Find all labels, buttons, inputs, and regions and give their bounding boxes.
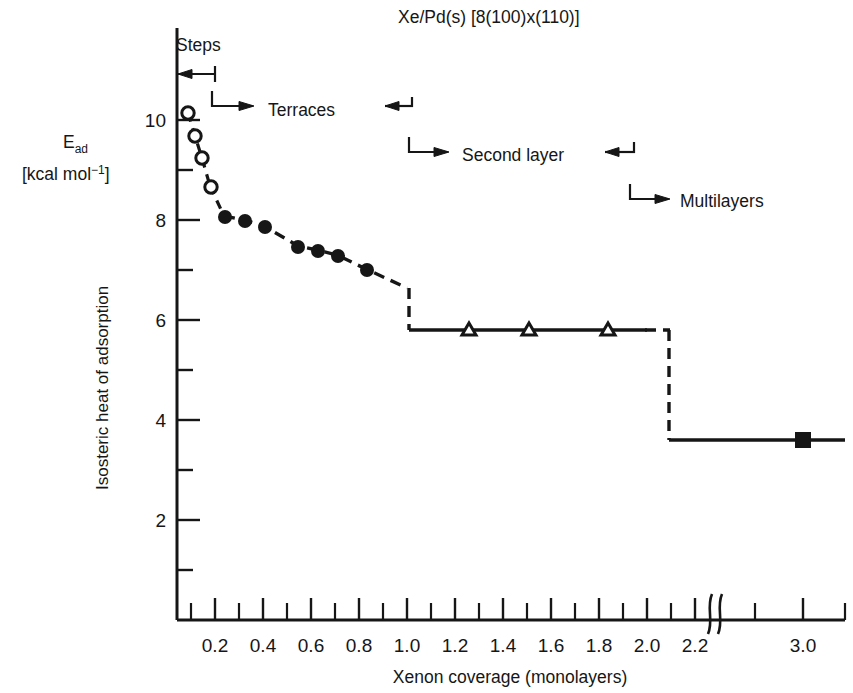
y-tick-label: 10	[145, 110, 166, 131]
y-axis-title-ead: Ead	[63, 132, 88, 156]
x-axis-minor-ticks	[191, 603, 845, 620]
x-tick-label: 2.0	[634, 635, 660, 656]
data-point-filled-circle	[360, 263, 374, 277]
y-axis-ticks	[177, 120, 200, 570]
data-point-filled-circle	[331, 249, 345, 263]
markers-terraces-filled-circles	[218, 210, 374, 277]
x-tick-label: 3.0	[790, 635, 816, 656]
data-point-open-circle	[189, 130, 201, 142]
x-tick-label: 1.8	[586, 635, 612, 656]
y-tick-label: 2	[155, 510, 166, 531]
x-tick-label: 0.8	[346, 635, 372, 656]
y-tick-label: 4	[155, 410, 166, 431]
y-axis-rotated-label: Isosteric heat of adsorption	[93, 286, 112, 490]
x-axis-break-symbol	[708, 594, 722, 634]
region-label-steps: Steps	[176, 35, 221, 55]
data-point-filled-circle	[218, 210, 232, 224]
chart-svg: Xe/Pd(s) [8(100)x(110)] Ead [kcal mol−1]…	[0, 0, 853, 693]
x-axis-title: Xenon coverage (monolayers)	[393, 667, 627, 687]
steps-range-arrow	[178, 66, 216, 82]
multilayers-start-arrow	[630, 184, 670, 204]
x-tick-label: 0.6	[298, 635, 324, 656]
x-tick-label: 0.2	[202, 635, 228, 656]
data-point-open-triangle	[522, 323, 536, 335]
data-point-filled-circle	[291, 240, 305, 254]
second-layer-end-arrow	[605, 142, 635, 157]
x-tick-label: 1.4	[490, 635, 517, 656]
data-point-open-circle	[196, 152, 208, 164]
series-steps-line	[188, 113, 210, 186]
data-point-filled-circle	[311, 244, 325, 258]
y-axis-title-units: [kcal mol−1]	[22, 163, 110, 184]
region-label-terraces: Terraces	[268, 100, 335, 120]
y-tick-label: 8	[155, 210, 166, 231]
data-point-filled-circle	[238, 214, 252, 228]
terraces-end-arrow	[385, 97, 413, 111]
x-tick-label: 1.2	[442, 635, 468, 656]
x-tick-label: 1.0	[394, 635, 420, 656]
x-tick-label: 2.2	[682, 635, 708, 656]
y-tick-label: 6	[155, 310, 166, 331]
x-axis-tick-labels: 0.2 0.4 0.6 0.8 1.0 1.2 1.4 1.6 1.8 2.0 …	[202, 635, 816, 656]
data-point-open-triangle	[601, 323, 615, 335]
system-label: Xe/Pd(s) [8(100)x(110)]	[398, 7, 580, 27]
second-layer-start-arrow	[409, 137, 449, 157]
region-label-multilayers: Multilayers	[680, 191, 764, 211]
x-axis-major-ticks	[215, 598, 803, 620]
chart-figure: Xe/Pd(s) [8(100)x(110)] Ead [kcal mol−1]…	[0, 0, 853, 693]
data-point-open-circle	[205, 181, 217, 193]
data-point-open-triangle	[462, 323, 476, 335]
region-label-second-layer: Second layer	[462, 145, 564, 165]
data-point-open-circle	[182, 107, 194, 119]
data-point-filled-circle	[258, 220, 272, 234]
y-axis-tick-labels: 10 8 6 4 2	[145, 110, 167, 531]
x-tick-label: 0.4	[250, 635, 277, 656]
x-tick-label: 1.6	[538, 635, 564, 656]
markers-multilayer-filled-square	[795, 432, 811, 448]
data-point-filled-square	[795, 432, 811, 448]
terraces-start-arrow	[212, 91, 254, 111]
